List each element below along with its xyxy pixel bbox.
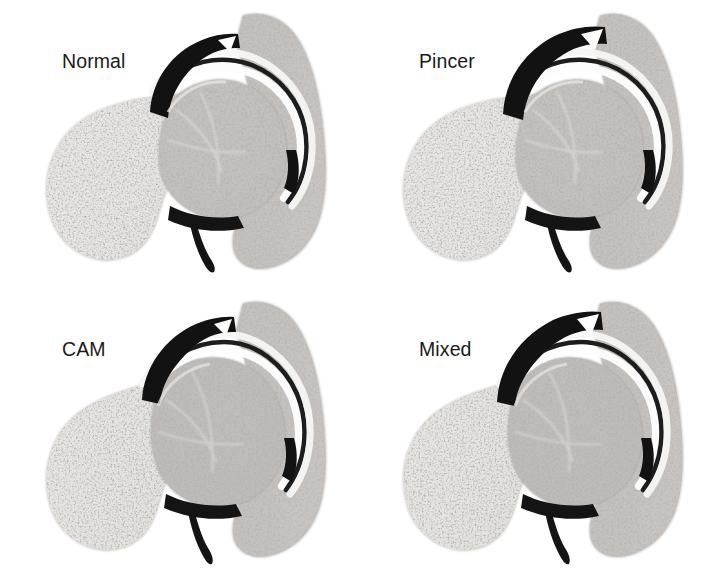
hip-morphology-figure: Normal	[0, 0, 714, 576]
panel-label-cam: CAM	[62, 338, 106, 361]
panel-normal: Normal	[0, 0, 357, 288]
panel-cam: CAM	[0, 288, 357, 576]
panel-label-normal: Normal	[62, 50, 125, 73]
panel-pincer: Pincer	[357, 0, 714, 288]
panel-label-mixed: Mixed	[419, 338, 472, 361]
hip-illustration-normal	[0, 0, 357, 288]
hip-illustration-cam	[0, 288, 357, 576]
hip-illustration-pincer	[357, 0, 714, 288]
panel-label-pincer: Pincer	[419, 50, 475, 73]
hip-illustration-mixed	[357, 288, 714, 576]
panel-mixed: Mixed	[357, 288, 714, 576]
